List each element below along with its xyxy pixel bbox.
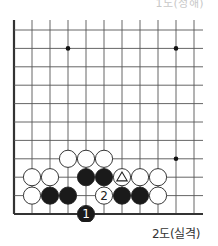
white-stone <box>149 169 166 186</box>
white-stone <box>59 150 76 167</box>
white-stone <box>131 169 148 186</box>
white-stone <box>77 150 94 167</box>
star-point <box>174 157 179 162</box>
white-stone <box>149 187 166 204</box>
move-number-label: 1 <box>82 207 90 221</box>
white-stone <box>23 169 40 186</box>
star-point <box>66 46 71 51</box>
black-stone <box>59 187 76 204</box>
move-number-label: 2 <box>100 189 108 203</box>
black-stone <box>113 187 130 204</box>
star-point <box>174 46 179 51</box>
white-stone <box>23 187 40 204</box>
black-stone <box>41 187 58 204</box>
black-stone <box>77 169 94 186</box>
white-stone <box>41 169 58 186</box>
diagram-caption: 2도(실격) <box>152 224 200 241</box>
white-stone <box>95 150 112 167</box>
black-stone <box>131 187 148 204</box>
go-board: 21 <box>0 0 218 222</box>
black-stone <box>95 169 112 186</box>
